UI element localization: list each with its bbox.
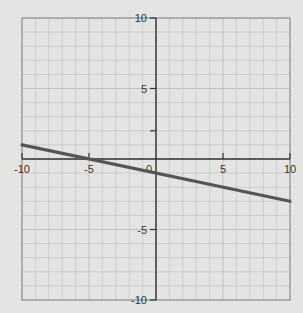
x-tick-label: 10 <box>284 163 296 175</box>
y-tick-label: 10 <box>135 12 147 24</box>
line-graph: -10-50510-10-5510 <box>0 0 303 313</box>
x-tick-label: -5 <box>84 163 94 175</box>
x-tick-label: 5 <box>220 163 226 175</box>
y-tick-label: -5 <box>137 224 147 236</box>
y-tick-label: 5 <box>141 83 147 95</box>
y-tick-label: -10 <box>131 294 147 306</box>
x-tick-label: -10 <box>14 163 30 175</box>
